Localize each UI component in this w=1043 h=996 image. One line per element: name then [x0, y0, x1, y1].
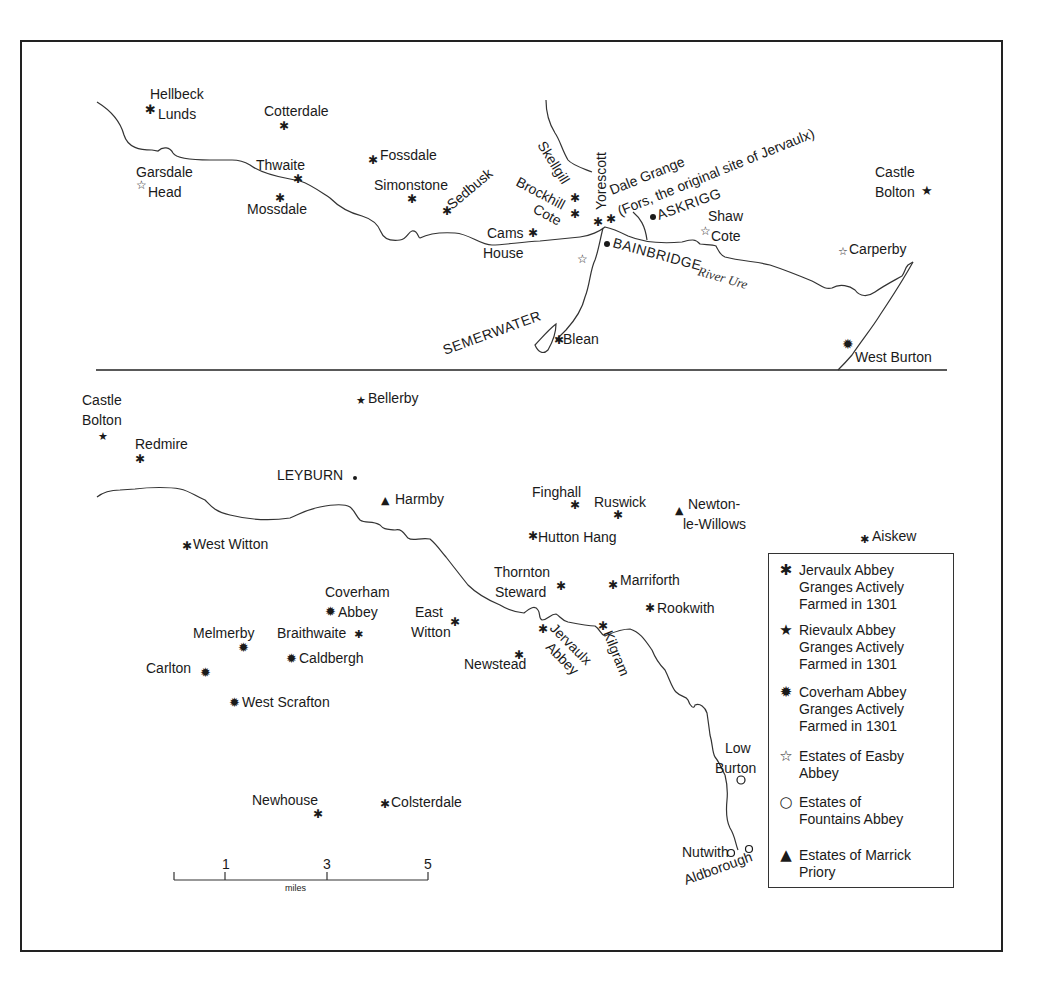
legend-item-rievaulx: ★ Rievaulx Abbey Granges Actively Farmed… [777, 622, 949, 673]
jervaulx-grange-icon: ✱ [570, 191, 580, 205]
svg-text:Carperby: Carperby [849, 241, 907, 257]
town-dot-icon [353, 476, 357, 480]
coverham-grange-icon: ✹ [238, 640, 249, 655]
svg-text:Aiskew: Aiskew [872, 528, 917, 544]
place-newhouse: Newhouse ✱ [252, 792, 323, 821]
svg-text:Castle: Castle [82, 392, 122, 408]
svg-text:Abbey: Abbey [338, 604, 378, 620]
open-circle-icon: ○ [777, 794, 795, 811]
semerwater-lake [535, 324, 556, 352]
map-legend: ✱ Jervaulx Abbey Granges Actively Farmed… [768, 553, 954, 888]
place-fossdale: ✱ Fossdale [368, 147, 437, 167]
place-easby-near-bainbridge: ☆ [577, 252, 588, 266]
place-cotterdale: Cotterdale ✱ [264, 103, 329, 133]
svg-text:West Scrafton: West Scrafton [242, 694, 330, 710]
svg-text:LEYBURN: LEYBURN [277, 467, 343, 483]
svg-text:Bolton: Bolton [875, 184, 915, 200]
place-finghall: Finghall ✱ [532, 484, 581, 512]
place-west-burton: ✹ West Burton [842, 336, 932, 365]
jervaulx-grange-icon: ✱ [570, 207, 580, 221]
open-star-icon: ☆ [777, 748, 795, 765]
legend-item-coverham: ✹ Coverham Abbey Granges Actively Farmed… [777, 684, 949, 735]
place-colsterdale: ✱ Colsterdale [380, 794, 462, 811]
svg-text:Sedbusk: Sedbusk [444, 164, 497, 212]
jervaulx-grange-icon: ✱ [570, 498, 580, 512]
easby-estate-icon: ☆ [136, 178, 147, 192]
place-newstead: ✱ Newstead [464, 648, 526, 672]
svg-text:Steward: Steward [495, 584, 546, 600]
svg-text:Low: Low [725, 740, 752, 756]
place-sedbusk: ✱ Sedbusk [442, 164, 496, 218]
place-caldbergh: ✹ Caldbergh [286, 650, 364, 666]
svg-text:Simonstone: Simonstone [374, 177, 448, 193]
town-dot-icon [604, 241, 610, 247]
legend-label: Estates of Marrick Priory [799, 847, 929, 881]
river-ure-label: River Ure [695, 263, 749, 292]
svg-text:Cams: Cams [487, 225, 524, 241]
svg-text:Thornton: Thornton [494, 564, 550, 580]
fountains-estate-icon [737, 776, 745, 784]
jervaulx-grange-icon: ✱ [313, 807, 323, 821]
place-melmerby: Melmerby ✹ [193, 625, 254, 655]
coverham-grange-icon: ✹ [286, 651, 297, 666]
place-braithwaite: Braithwaite ✱ [277, 625, 363, 641]
place-bellerby: ★ Bellerby [356, 390, 419, 407]
place-garsdale-head: Garsdale ☆ Head [136, 164, 193, 200]
place-carperby: ☆ Carperby [838, 241, 907, 258]
legend-label: Coverham Abbey Granges Actively Farmed i… [799, 684, 949, 735]
place-newton-le-willows: ▲ Newton- le-Willows [675, 496, 746, 532]
easby-estate-icon: ☆ [700, 224, 711, 238]
svg-text:Thwaite: Thwaite [256, 157, 305, 173]
svg-text:Bellerby: Bellerby [368, 390, 419, 406]
svg-text:Burton: Burton [715, 760, 756, 776]
svg-text:Bolton: Bolton [82, 412, 122, 428]
starburst-icon: ✹ [777, 684, 795, 701]
place-low-burton: Low Burton [715, 740, 756, 784]
jervaulx-grange-icon: ✱ [613, 508, 623, 522]
place-carlton: Carlton ✹ [146, 660, 211, 680]
coverham-grange-icon: ✹ [200, 665, 211, 680]
place-marriforth: ✱ Marriforth [608, 572, 680, 592]
jervaulx-grange-icon: ✱ [182, 539, 192, 553]
svg-text:West Burton: West Burton [855, 349, 932, 365]
svg-text:Newton-: Newton- [688, 496, 740, 512]
svg-text:Caldbergh: Caldbergh [299, 650, 364, 666]
place-shaw-cote: Shaw ☆ Cote [700, 208, 744, 244]
river-ure-upper [97, 102, 913, 296]
svg-text:Skellgill: Skellgill [534, 138, 573, 187]
svg-text:Kilgram: Kilgram [600, 628, 633, 678]
jervaulx-grange-icon: ✱ [860, 533, 869, 546]
svg-text:Hellbeck: Hellbeck [150, 86, 205, 102]
scale-unit: miles [285, 883, 307, 893]
marrick-estate-icon: ▲ [381, 494, 390, 507]
place-kilgram: ✱ Kilgram [598, 619, 633, 678]
svg-text:Rookwith: Rookwith [657, 600, 715, 616]
legend-item-jervaulx: ✱ Jervaulx Abbey Granges Actively Farmed… [777, 562, 949, 613]
jervaulx-grange-icon: ✱ [538, 622, 548, 636]
svg-text:Colsterdale: Colsterdale [391, 794, 462, 810]
svg-text:Cotterdale: Cotterdale [264, 103, 329, 119]
place-rookwith: ✱ Rookwith [645, 600, 715, 616]
rievaulx-grange-icon: ★ [356, 394, 366, 407]
place-aiskew: ✱ Aiskew [860, 528, 917, 546]
svg-text:Yorescott: Yorescott [593, 152, 609, 210]
rievaulx-grange-icon: ★ [98, 430, 108, 443]
svg-text:Blean: Blean [563, 331, 599, 347]
legend-label: Estates of Fountains Abbey [799, 794, 919, 828]
place-harmby: ▲ Harmby [381, 491, 444, 507]
svg-text:Fossdale: Fossdale [380, 147, 437, 163]
place-thornton-steward: Thornton Steward ✱ [494, 564, 566, 600]
jervaulx-grange-icon: ✱ [368, 153, 378, 167]
legend-label: Jervaulx Abbey Granges Actively Farmed i… [799, 562, 949, 613]
place-coverham-abbey: Coverham ✹ Abbey [325, 584, 390, 620]
place-redmire: Redmire ✱ [135, 436, 188, 466]
svg-text:Melmerby: Melmerby [193, 625, 254, 641]
svg-text:Braithwaite: Braithwaite [277, 625, 346, 641]
jervaulx-grange-icon: ✱ [293, 172, 303, 186]
place-cams-house: Cams ✱ House [483, 225, 538, 261]
place-castle-bolton-lower: Castle Bolton ★ [82, 392, 122, 443]
jervaulx-grange-icon: ✱ [645, 601, 655, 615]
scale-bar: 1 3 5 miles [174, 856, 432, 893]
svg-text:House: House [483, 245, 524, 261]
tributary-semerwater [556, 228, 603, 340]
